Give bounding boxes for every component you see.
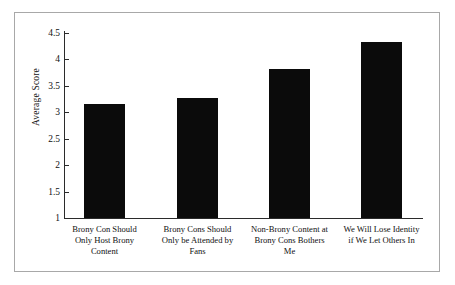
y-tick-label-wrap: 2.5 — [18, 134, 60, 144]
y-tick-label: 1.5 — [20, 187, 60, 197]
y-tick-label-wrap: 2 — [18, 160, 60, 170]
y-tick-label-wrap: 4.5 — [18, 28, 60, 38]
y-tick-4 — [65, 59, 69, 60]
x-tick-label: Non-Brony Content atBrony Cons BothersMe — [244, 224, 336, 258]
y-tick-label: 2 — [20, 160, 60, 170]
y-tick-3 — [65, 112, 69, 113]
bar-chart: Average Score 11.522.533.544.5 Brony Con… — [0, 0, 455, 285]
x-tick-label-line: Only be Attended by — [152, 235, 244, 246]
y-tick-2.5 — [65, 139, 69, 140]
y-tick-label: 2.5 — [20, 134, 60, 144]
bar — [84, 104, 125, 218]
y-tick-label: 3 — [20, 107, 60, 117]
y-tick-label: 1 — [20, 213, 60, 223]
y-tick-label: 4.5 — [20, 28, 60, 38]
y-tick-label: 3.5 — [20, 81, 60, 91]
x-tick-label-line: Fans — [152, 246, 244, 257]
bar — [269, 69, 310, 218]
x-tick-label-line: if We Let Others In — [336, 235, 428, 246]
y-tick-1.5 — [65, 192, 69, 193]
x-tick-label-line: We Will Lose Identity — [336, 224, 428, 235]
x-tick-label: We Will Lose Identityif We Let Others In — [336, 224, 428, 246]
x-tick-label: Brony Con ShouldOnly Host BronyContent — [59, 224, 151, 258]
x-tick-label-line: Only Host Brony — [59, 235, 151, 246]
x-tick-label-line: Brony Con Should — [59, 224, 151, 235]
bar — [177, 98, 218, 218]
y-tick-3.5 — [65, 86, 69, 87]
y-tick-4.5 — [65, 33, 69, 34]
x-tick-label-line: Me — [244, 246, 336, 257]
y-tick-2 — [65, 165, 69, 166]
y-tick-label-wrap: 3.5 — [18, 81, 60, 91]
bar — [361, 42, 402, 218]
x-tick-label-line: Non-Brony Content at — [244, 224, 336, 235]
y-tick-label-wrap: 1 — [18, 213, 60, 223]
x-tick-label: Brony Cons ShouldOnly be Attended byFans — [152, 224, 244, 258]
y-tick-label-wrap: 3 — [18, 107, 60, 117]
x-axis-line — [64, 218, 423, 219]
x-tick-label-line: Content — [59, 246, 151, 257]
y-tick-1 — [65, 218, 69, 219]
y-tick-label-wrap: 1.5 — [18, 187, 60, 197]
x-tick-label-line: Brony Cons Bothers — [244, 235, 336, 246]
y-tick-label: 4 — [20, 54, 60, 64]
x-tick-label-line: Brony Cons Should — [152, 224, 244, 235]
y-tick-label-wrap: 4 — [18, 54, 60, 64]
